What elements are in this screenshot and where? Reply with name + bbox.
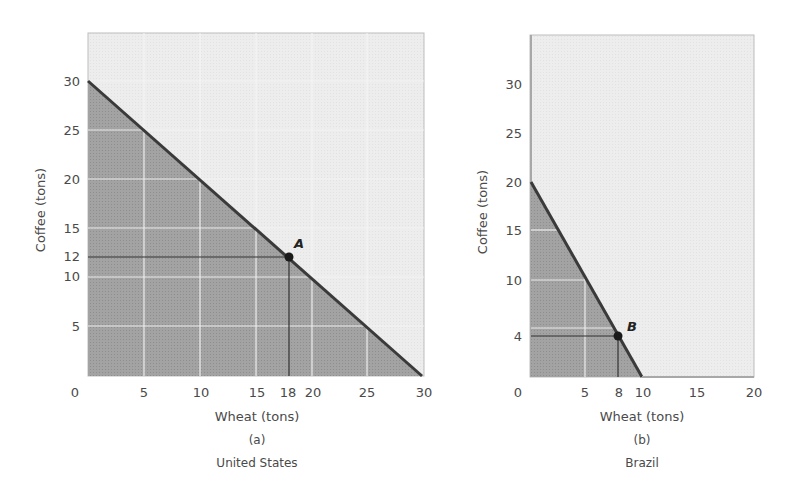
y-tick-20-a: 20 — [63, 172, 80, 187]
y-tick-25-b: 25 — [505, 126, 522, 141]
y-tick-15-a: 15 — [63, 221, 80, 236]
point-b-marker — [614, 332, 623, 341]
x-axis-label-b: Wheat (tons) — [600, 409, 685, 424]
x-tick-15-b: 15 — [689, 385, 706, 400]
x-tick-5-a: 5 — [140, 385, 148, 400]
point-a-label: A — [293, 236, 304, 251]
y-axis-label-a: Coffee (tons) — [33, 168, 48, 252]
y-tick-20-b: 20 — [505, 175, 522, 190]
y-tick-10-b: 10 — [505, 273, 522, 288]
x-tick-0-b: 0 — [514, 385, 522, 400]
x-tick-30-a: 30 — [416, 385, 433, 400]
panel-sub-label-a: (a) — [249, 433, 266, 447]
x-tick-20-a: 20 — [305, 385, 322, 400]
y-tick-30-a: 30 — [63, 74, 80, 89]
panel-brazil: B 30 25 20 15 10 4 0 5 8 10 15 20 Coffee… — [475, 35, 762, 470]
panel-title-united-states: United States — [216, 456, 297, 470]
x-tick-18-a: 18 — [280, 385, 297, 400]
x-tick-10-a: 10 — [193, 385, 210, 400]
point-b-label: B — [627, 319, 637, 334]
x-tick-20-b: 20 — [746, 385, 763, 400]
y-tick-10-a: 10 — [63, 269, 80, 284]
panel-sub-label-b: (b) — [634, 433, 651, 447]
y-tick-15-b: 15 — [505, 223, 522, 238]
x-tick-5-b: 5 — [581, 385, 589, 400]
panel-title-brazil: Brazil — [625, 456, 659, 470]
y-tick-5-a: 5 — [72, 319, 80, 334]
x-tick-0-a: 0 — [71, 385, 79, 400]
panel-united-states: A 30 25 20 15 12 10 5 0 5 10 15 18 20 25… — [33, 33, 432, 470]
x-tick-15-a: 15 — [249, 385, 266, 400]
y-tick-30-b: 30 — [505, 77, 522, 92]
y-tick-12-a: 12 — [63, 249, 80, 264]
point-a-marker — [285, 253, 294, 262]
x-tick-10-b: 10 — [635, 385, 652, 400]
x-axis-label-a: Wheat (tons) — [215, 409, 300, 424]
x-tick-25-a: 25 — [359, 385, 376, 400]
y-tick-25-a: 25 — [63, 123, 80, 138]
figure: A 30 25 20 15 12 10 5 0 5 10 15 18 20 25… — [0, 0, 786, 496]
y-tick-4-b: 4 — [514, 329, 522, 344]
x-tick-8-b: 8 — [615, 385, 623, 400]
y-axis-label-b: Coffee (tons) — [475, 170, 490, 254]
